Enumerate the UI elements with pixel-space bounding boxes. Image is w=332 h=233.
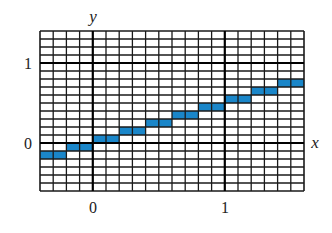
grid-minor-lines — [40, 31, 304, 191]
step-function-graph: y x 1 0 0 1 — [0, 0, 332, 233]
y-tick-label-0: 0 — [24, 135, 32, 152]
x-tick-label-0: 0 — [89, 199, 97, 216]
y-axis-label: y — [87, 7, 97, 26]
x-axis-label: x — [310, 133, 319, 152]
y-tick-label-1: 1 — [24, 55, 32, 72]
x-tick-label-1: 1 — [221, 199, 229, 216]
